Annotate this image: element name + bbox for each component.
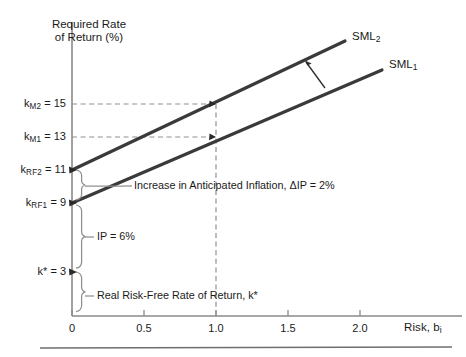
annotation-real-rate: Real Risk-Free Rate of Return, k* (97, 289, 258, 301)
y-axis-title: Required Rate of Return (%) (30, 18, 148, 44)
y-label-krf2-value: 11 (55, 163, 66, 175)
y-label-krf1-eq: = (50, 196, 56, 208)
y-label-kstar-key: k* (38, 265, 48, 277)
y-label-krf1-sub: RF1 (31, 201, 47, 210)
x-tick-label-2_0: 2.0 (345, 322, 375, 334)
y-label-km1-sub: M1 (30, 135, 42, 144)
arrowhead-kstar (69, 269, 77, 276)
sml-shift-arrow (305, 61, 325, 89)
y-label-krf2-eq: = (45, 163, 51, 175)
x-tick-label-1_0: 1.0 (201, 322, 231, 334)
sml2-label-sub: 2 (376, 34, 381, 44)
y-axis-title-line1: Required Rate (30, 18, 148, 31)
market-points-group (209, 101, 216, 141)
y-label-krf1: kRF1 = 9 (0, 196, 66, 210)
y-label-km2-eq: = (44, 97, 50, 109)
y-label-km2-sub: M2 (30, 102, 42, 111)
annotation-ip: IP = 6% (97, 230, 135, 242)
x-axis-title-sub: i (440, 325, 442, 335)
x-tick-label-0: 0 (62, 322, 82, 334)
y-label-kstar-eq: = (50, 265, 56, 277)
annotation-delta-ip: Increase in Anticipated Inflation, ΔIP =… (134, 179, 335, 191)
brace-real-rate (76, 272, 94, 312)
y-label-kstar-value: 3 (60, 265, 66, 277)
y-label-km1-value: 13 (54, 130, 66, 142)
y-label-km2: kM2 = 15 (0, 97, 66, 111)
sml-chart-figure: Required Rate of Return (%) kM2 = 15 kM1… (0, 0, 466, 357)
y-axis-title-line2: of Return (%) (30, 31, 148, 44)
y-label-km2-value: 15 (54, 97, 66, 109)
y-label-km1-eq: = (44, 130, 50, 142)
x-tick-label-0_5: 0.5 (129, 322, 159, 334)
sml1-label-text: SML (389, 58, 413, 70)
axis-callout-arrowheads (69, 167, 77, 276)
brace-ip (76, 205, 94, 268)
sml2-line (72, 41, 345, 170)
sml2-label: SML2 (352, 30, 381, 44)
sml1-label-sub: 1 (413, 62, 418, 72)
bottom-rule (40, 347, 452, 348)
sml2-label-text: SML (352, 30, 376, 42)
y-label-kstar: k* = 3 (0, 265, 66, 277)
x-axis-title-text: Risk, b (404, 321, 440, 333)
y-label-km1: kM1 = 13 (0, 130, 66, 144)
y-label-krf2-sub: RF2 (26, 168, 42, 177)
sml1-label: SML1 (389, 58, 418, 72)
x-axis-title: Risk, bi (404, 321, 442, 335)
market-point-sml1 (209, 134, 216, 141)
y-label-krf1-value: 9 (60, 196, 66, 208)
y-label-krf2: kRF2 = 11 (0, 163, 66, 177)
x-tick-label-1_5: 1.5 (273, 322, 303, 334)
